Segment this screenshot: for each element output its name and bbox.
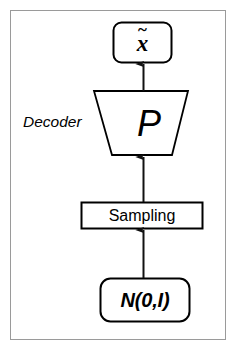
- decoder-inner-label: P: [112, 95, 174, 153]
- output-node-label: ~ x: [113, 22, 172, 63]
- sampling-node-label: Sampling: [81, 202, 203, 229]
- decoder-side-label: Decoder: [18, 108, 98, 136]
- tilde-accent-icon: ~: [138, 21, 147, 38]
- figure-canvas: ~ x Decoder P Sampling N(0,I): [0, 0, 243, 356]
- noise-node-label: N(0,I): [100, 278, 190, 322]
